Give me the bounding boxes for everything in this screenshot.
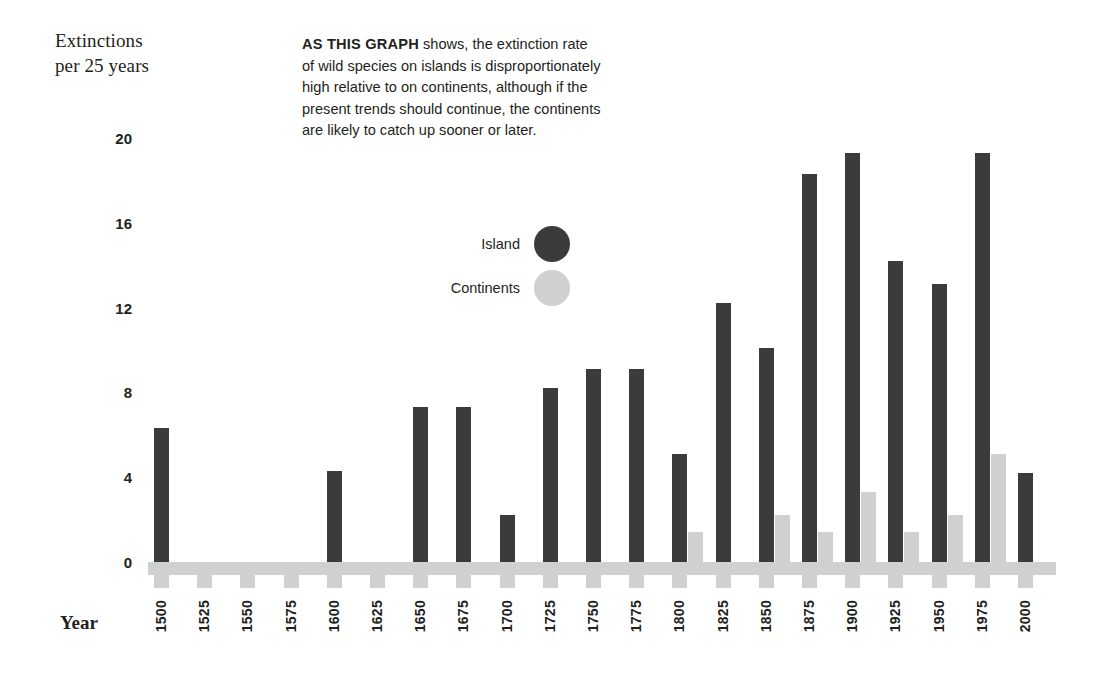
x-axis-tick-label: 1625 xyxy=(369,600,385,632)
y-axis-tick-label: 0 xyxy=(92,554,132,571)
x-axis-tick-label: 1825 xyxy=(715,600,731,632)
bar-island xyxy=(975,153,990,562)
bar-island xyxy=(586,369,601,562)
x-axis-tick-label: 1650 xyxy=(412,600,428,632)
bar-island xyxy=(716,303,731,562)
bar-chart-plot: 048121620 150015251550157516001625165016… xyxy=(0,0,1102,673)
bar-continents xyxy=(861,492,876,562)
x-axis-tick-label: 1875 xyxy=(801,600,817,632)
x-axis-tick-label: 1675 xyxy=(455,600,471,632)
bar-island xyxy=(932,284,947,562)
bars-layer xyxy=(148,0,1056,673)
x-axis-tick-label: 1575 xyxy=(283,600,299,632)
bar-island xyxy=(888,261,903,562)
x-axis-tick-label: 1700 xyxy=(499,600,515,632)
bar-island xyxy=(327,471,342,562)
y-axis-tick-label: 20 xyxy=(92,130,132,147)
x-axis-tick-label: 1775 xyxy=(628,600,644,632)
x-axis-tick-label: 1550 xyxy=(239,600,255,632)
bar-continents xyxy=(775,515,790,562)
bar-island xyxy=(154,428,169,562)
bar-island xyxy=(456,407,471,562)
bar-island xyxy=(543,388,558,562)
x-axis-tick-label: 1925 xyxy=(887,600,903,632)
y-axis-tick-label: 4 xyxy=(92,469,132,486)
bar-island xyxy=(672,454,687,562)
y-axis-tick-label: 8 xyxy=(92,384,132,401)
x-axis-tick-label: 1600 xyxy=(326,600,342,632)
x-axis-tick-label: 1975 xyxy=(974,600,990,632)
x-axis-tick-label: 1950 xyxy=(931,600,947,632)
x-axis-title: Year xyxy=(60,612,98,634)
bar-island xyxy=(629,369,644,562)
x-axis-tick-label: 1850 xyxy=(758,600,774,632)
bar-island xyxy=(500,515,515,562)
bar-continents xyxy=(948,515,963,562)
bar-island xyxy=(845,153,860,562)
bar-island xyxy=(1018,473,1033,562)
x-axis-tick-label: 1800 xyxy=(671,600,687,632)
y-axis-tick-label: 16 xyxy=(92,214,132,231)
x-axis-tick-label: 1725 xyxy=(542,600,558,632)
x-axis-tick-label: 1500 xyxy=(153,600,169,632)
x-axis-tick-label: 1525 xyxy=(196,600,212,632)
x-axis-tick-label: 1900 xyxy=(844,600,860,632)
bar-island xyxy=(759,348,774,562)
x-axis-tick-label: 2000 xyxy=(1017,600,1033,632)
bar-continents xyxy=(818,532,833,562)
bar-continents xyxy=(991,454,1006,562)
bar-continents xyxy=(904,532,919,562)
x-axis-tick-label: 1750 xyxy=(585,600,601,632)
y-axis-tick-label: 12 xyxy=(92,299,132,316)
bar-island xyxy=(413,407,428,562)
bar-continents xyxy=(688,532,703,562)
bar-island xyxy=(802,174,817,562)
